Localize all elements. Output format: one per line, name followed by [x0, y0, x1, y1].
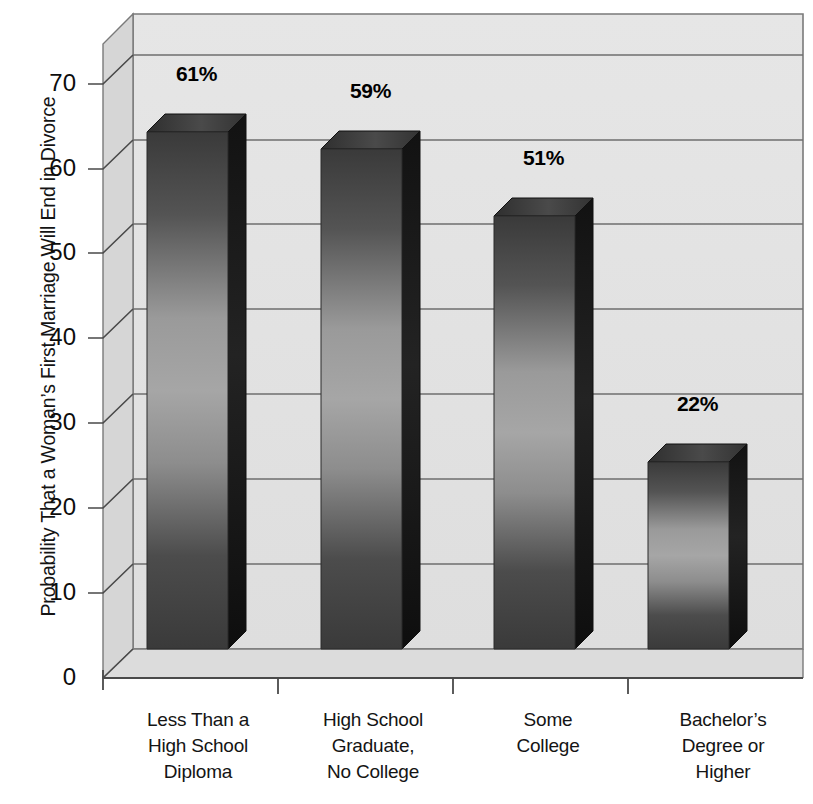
x-category-label-3-line1: Some [458, 707, 638, 733]
y-tick-label-30: 30 [20, 410, 76, 434]
floor [103, 649, 803, 678]
x-category-label-2-line3: No College [283, 759, 463, 785]
x-category-label-4-line1: Bachelor’s [633, 707, 813, 733]
x-category-label-4-line3: Higher [633, 759, 813, 785]
y-tick-label-60: 60 [20, 156, 76, 180]
y-tick-label-10: 10 [20, 580, 76, 604]
y-tick-label-0: 0 [20, 665, 76, 689]
x-category-label-3-line2: College [458, 733, 638, 759]
bar-value-label-2: 59% [321, 79, 420, 103]
x-category-label-3: Some College [458, 707, 638, 759]
x-category-label-4: Bachelor’s Degree or Higher [633, 707, 813, 785]
bar-value-label-3: 51% [494, 146, 593, 170]
bar-value-label-4: 22% [648, 392, 747, 416]
bar-high-school-graduate-no-college[interactable] [321, 131, 420, 649]
x-axis-ticks [278, 678, 628, 694]
x-category-label-1-line3: Diploma [108, 759, 288, 785]
bar-front-face [648, 462, 729, 649]
y-tick-label-40: 40 [20, 325, 76, 349]
bar-side-face [729, 444, 747, 649]
x-category-label-1-line1: Less Than a [108, 707, 288, 733]
y-tick-label-70: 70 [20, 71, 76, 95]
bar-side-face [228, 114, 246, 649]
y-tick-label-20: 20 [20, 495, 76, 519]
x-category-label-4-line2: Degree or [633, 733, 813, 759]
y-tick-label-50: 50 [20, 240, 76, 264]
x-category-label-1: Less Than a High School Diploma [108, 707, 288, 785]
bar-front-face [494, 216, 575, 649]
chart-root: Probability That a Woman’s First Marriag… [0, 0, 813, 804]
bar-bachelors-degree-or-higher[interactable] [648, 444, 747, 649]
bar-front-face [321, 149, 402, 649]
x-category-label-2: High School Graduate, No College [283, 707, 463, 785]
bar-side-face [402, 131, 420, 649]
bar-value-label-1: 61% [147, 62, 246, 86]
x-category-label-1-line2: High School [108, 733, 288, 759]
x-category-label-2-line2: Graduate, [283, 733, 463, 759]
bar-front-face [147, 132, 228, 649]
bar-less-than-a-high-school-diploma[interactable] [147, 114, 246, 649]
bar-some-college[interactable] [494, 198, 593, 649]
bar-side-face [575, 198, 593, 649]
x-category-label-2-line1: High School [283, 707, 463, 733]
